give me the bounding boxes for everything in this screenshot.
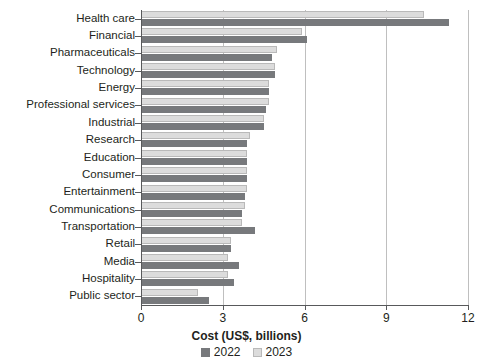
legend-swatch-2023-icon bbox=[253, 348, 262, 357]
y-axis-label-consumer: Consumer bbox=[2, 169, 135, 181]
x-axis-tick-label: 12 bbox=[453, 311, 483, 325]
bar-group bbox=[141, 149, 468, 166]
y-axis-line bbox=[141, 10, 142, 305]
y-axis-label-communications: Communications bbox=[2, 204, 135, 216]
legend-item-2022: 2022 bbox=[201, 345, 241, 359]
bar-2023 bbox=[141, 185, 247, 192]
bar-group bbox=[141, 27, 468, 44]
y-axis-label-pharmaceuticals: Pharmaceuticals bbox=[2, 47, 135, 59]
bar-2022 bbox=[141, 140, 247, 147]
x-axis-tick bbox=[141, 305, 142, 310]
y-axis-tick bbox=[135, 244, 141, 245]
x-axis-tick-label: 6 bbox=[290, 311, 320, 325]
bar-2023 bbox=[141, 98, 269, 105]
bar-2023 bbox=[141, 11, 424, 18]
bar-group bbox=[141, 79, 468, 96]
x-axis-tick-label: 0 bbox=[126, 311, 156, 325]
bar-2022 bbox=[141, 71, 275, 78]
y-axis-tick bbox=[135, 123, 141, 124]
y-axis-label-retail: Retail bbox=[2, 238, 135, 250]
bar-group bbox=[141, 288, 468, 305]
bar-2023 bbox=[141, 237, 231, 244]
legend-label-2022: 2022 bbox=[214, 345, 241, 359]
bar-2022 bbox=[141, 175, 247, 182]
bar-group bbox=[141, 166, 468, 183]
x-axis-title: Cost (US$, billions) bbox=[0, 329, 493, 343]
x-axis-tick bbox=[386, 305, 387, 310]
bar-2022 bbox=[141, 19, 449, 26]
bar-2023 bbox=[141, 271, 228, 278]
bar-group bbox=[141, 114, 468, 131]
y-axis-label-media: Media bbox=[2, 256, 135, 268]
bar-2022 bbox=[141, 279, 234, 286]
bar-group bbox=[141, 201, 468, 218]
bar-2023 bbox=[141, 202, 245, 209]
y-axis-label-hospitality: Hospitality bbox=[2, 273, 135, 285]
bar-2022 bbox=[141, 158, 247, 165]
bar-group bbox=[141, 253, 468, 270]
bar-group bbox=[141, 10, 468, 27]
bar-2023 bbox=[141, 46, 277, 53]
y-axis-tick bbox=[135, 210, 141, 211]
y-axis-label-financial: Financial bbox=[2, 30, 135, 42]
y-axis-label-research: Research bbox=[2, 134, 135, 146]
bar-2022 bbox=[141, 262, 239, 269]
y-axis-category-labels: Health careFinancialPharmaceuticalsTechn… bbox=[0, 10, 135, 305]
bar-2023 bbox=[141, 289, 198, 296]
bar-group bbox=[141, 218, 468, 235]
legend-label-2023: 2023 bbox=[266, 345, 293, 359]
y-axis-label-entertainment: Entertainment bbox=[2, 186, 135, 198]
y-axis-label-health-care: Health care bbox=[2, 13, 135, 25]
y-axis-tick bbox=[135, 192, 141, 193]
bar-2023 bbox=[141, 80, 269, 87]
bar-2022 bbox=[141, 123, 264, 130]
y-axis-tick bbox=[135, 227, 141, 228]
bar-group bbox=[141, 270, 468, 287]
y-axis-label-energy: Energy bbox=[2, 82, 135, 94]
x-axis-tick bbox=[305, 305, 306, 310]
x-axis-tick bbox=[468, 305, 469, 310]
plot-area bbox=[141, 10, 468, 305]
y-axis-label-professional-services: Professional services bbox=[2, 99, 135, 111]
x-axis-tick bbox=[223, 305, 224, 310]
y-axis-label-industrial: Industrial bbox=[2, 117, 135, 129]
y-axis-tick bbox=[135, 71, 141, 72]
bar-2022 bbox=[141, 36, 307, 43]
y-axis-label-transportation: Transportation bbox=[2, 221, 135, 233]
bar-group bbox=[141, 62, 468, 79]
legend-item-2023: 2023 bbox=[253, 345, 293, 359]
bar-group bbox=[141, 131, 468, 148]
bar-group bbox=[141, 45, 468, 62]
bar-2022 bbox=[141, 227, 255, 234]
bar-2022 bbox=[141, 88, 269, 95]
bar-2023 bbox=[141, 132, 250, 139]
y-axis-label-education: Education bbox=[2, 152, 135, 164]
bar-group bbox=[141, 236, 468, 253]
bar-2023 bbox=[141, 115, 264, 122]
bar-group bbox=[141, 184, 468, 201]
y-axis-tick bbox=[135, 279, 141, 280]
y-axis-tick bbox=[135, 296, 141, 297]
y-axis-tick bbox=[135, 262, 141, 263]
bar-2023 bbox=[141, 63, 275, 70]
x-axis-tick-label: 9 bbox=[371, 311, 401, 325]
y-axis-label-technology: Technology bbox=[2, 65, 135, 77]
gridline-x bbox=[468, 10, 469, 305]
bar-chart: Health careFinancialPharmaceuticalsTechn… bbox=[0, 0, 493, 361]
bar-2022 bbox=[141, 106, 266, 113]
y-axis-tick bbox=[135, 140, 141, 141]
y-axis-tick bbox=[135, 88, 141, 89]
bar-2022 bbox=[141, 297, 209, 304]
bar-2023 bbox=[141, 150, 247, 157]
bar-2023 bbox=[141, 28, 302, 35]
bar-2023 bbox=[141, 219, 242, 226]
bar-2023 bbox=[141, 254, 228, 261]
y-axis-tick bbox=[135, 53, 141, 54]
x-axis-tick-label: 3 bbox=[208, 311, 238, 325]
bar-2022 bbox=[141, 245, 231, 252]
y-axis-tick bbox=[135, 175, 141, 176]
y-axis-tick bbox=[135, 36, 141, 37]
y-axis-tick bbox=[135, 19, 141, 20]
bar-2022 bbox=[141, 54, 272, 61]
bar-2023 bbox=[141, 167, 247, 174]
